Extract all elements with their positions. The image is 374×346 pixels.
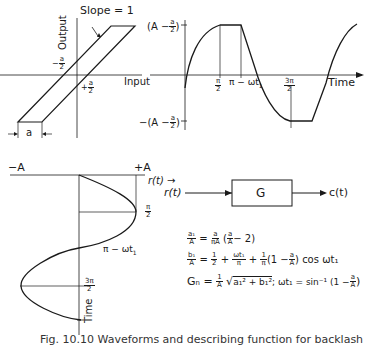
top-level-label: (A −a2) — [147, 19, 180, 34]
neg-half-a-label: −a2 — [52, 56, 65, 71]
neg-A-label: −A — [8, 162, 25, 173]
block-output-label: c(t) — [329, 187, 348, 198]
equation-gn: Gₙ = 1A √a₁² + b₁²; ωt₁ = sin⁻¹ (1 −aA) — [187, 274, 360, 289]
slope-label: Slope = 1 — [80, 5, 134, 16]
bottom-level-label: −(A −a2) — [139, 115, 180, 130]
time-axis-label: Time — [328, 77, 355, 88]
input-tick-3pi-over-2: 3π2 — [84, 278, 95, 293]
width-a-label: a — [26, 128, 32, 138]
input-tick-pi-minus-wt1: π − ωt1 — [103, 245, 137, 256]
tick-pi-minus-wt1: π − ωt1 — [229, 78, 263, 89]
output-waveform-curve — [185, 24, 357, 121]
equation-a1: a₁A = aπA (aA− 2) — [187, 231, 255, 246]
equation-b1: b₁A = 12 + ωt₁π + 1π(1 −aA) cos ωt₁ — [187, 252, 338, 267]
input-time-label: Time — [84, 299, 94, 323]
r-t-axis-label: r(t) → — [148, 176, 175, 186]
tick-3pi-over-2: 3π2 — [284, 78, 295, 93]
figure-caption: Fig. 10.10 Waveforms and describing func… — [40, 333, 363, 346]
tick-pi-over-2: π2 — [215, 78, 221, 93]
backlash-parallelogram — [18, 26, 135, 122]
pos-A-label: +A — [134, 162, 151, 173]
pos-half-a-label: +a2 — [81, 80, 94, 95]
slope-pointer — [92, 27, 98, 36]
block-g-label: G — [256, 187, 265, 199]
block-input-label: r(t) — [164, 187, 181, 198]
input-tick-pi-over-2: π2 — [145, 204, 151, 219]
output-axis-label: Output — [58, 15, 68, 50]
input-axis-label: Input — [124, 77, 150, 87]
